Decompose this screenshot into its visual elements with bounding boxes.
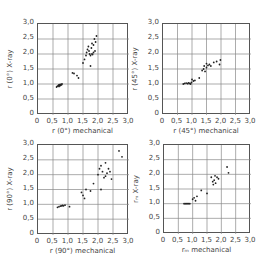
data-point [95, 41, 97, 43]
data-point [215, 182, 217, 184]
y-tick-label: 1,0 [144, 199, 160, 206]
x-tick-label: 2,0 [90, 118, 106, 125]
y-tick-label: 2,0 [18, 49, 34, 56]
y-tick-label: 1,5 [18, 65, 34, 72]
plot-area [163, 144, 250, 233]
x-axis-label: r (45°) mechanical [162, 127, 250, 135]
data-point [96, 35, 98, 37]
y-tick-label: 0,5 [143, 95, 159, 102]
y-tick-label: 0 [143, 110, 159, 117]
x-tick-label: 1,0 [59, 118, 75, 125]
x-tick-label: 3,0 [242, 118, 258, 125]
plot-svg [164, 145, 251, 234]
data-point [99, 168, 101, 170]
y-tick-label: 3,0 [144, 140, 160, 147]
data-point [216, 176, 218, 178]
data-point [86, 52, 88, 54]
y-tick-label: 1,5 [18, 185, 34, 192]
data-point [195, 200, 197, 202]
y-axis-label: r (0°) X-ray [6, 29, 14, 109]
y-tick-label: 1,5 [144, 185, 160, 192]
data-point [212, 184, 214, 186]
data-point [69, 206, 71, 208]
data-point [78, 77, 80, 79]
x-axis-label: r (0°) mechanical [37, 127, 128, 135]
x-tick-label: 0,5 [44, 118, 60, 125]
data-point [209, 64, 211, 66]
data-point [191, 82, 193, 84]
data-point [90, 190, 92, 192]
data-point [85, 189, 87, 191]
x-tick-label: 2,5 [105, 118, 121, 125]
x-tick-label: 1,5 [75, 118, 91, 125]
y-tick-label: 1,0 [18, 80, 34, 87]
plot-svg [38, 24, 129, 115]
plot-area [162, 23, 250, 114]
y-tick-label: 0,5 [144, 214, 160, 221]
y-tick-label: 3,0 [18, 140, 34, 147]
data-point [91, 43, 93, 45]
data-point [204, 71, 206, 73]
data-point [216, 61, 218, 63]
data-point [105, 162, 107, 164]
data-point [190, 83, 192, 85]
data-point [210, 65, 212, 67]
data-point [93, 44, 95, 46]
x-tick-label: 0,5 [169, 118, 185, 125]
data-point [118, 150, 120, 152]
data-point [191, 79, 193, 81]
plot-svg [163, 24, 251, 115]
data-point [87, 49, 89, 51]
data-point [218, 178, 220, 180]
y-tick-label: 1,0 [143, 80, 159, 87]
data-point [206, 193, 208, 195]
x-tick-label: 2,5 [227, 118, 243, 125]
data-point [92, 54, 94, 56]
x-tick-label: 0 [29, 118, 45, 125]
y-tick-label: 2,5 [144, 155, 160, 162]
data-point [206, 67, 208, 69]
data-point [90, 65, 92, 67]
data-point [189, 203, 191, 205]
data-point [206, 63, 208, 65]
data-point [200, 190, 202, 192]
data-point [93, 183, 95, 185]
data-point [213, 179, 215, 181]
x-tick-label: 2,0 [90, 238, 106, 245]
data-point [93, 52, 95, 54]
x-tick-label: 0,5 [44, 238, 60, 245]
data-point [81, 192, 83, 194]
y-tick-label: 2,5 [18, 34, 34, 41]
data-point [82, 195, 84, 197]
x-tick-label: 3,0 [242, 237, 258, 244]
data-point [91, 47, 93, 49]
data-point [201, 70, 203, 72]
data-point [82, 62, 84, 64]
x-tick-label: 1,0 [183, 118, 199, 125]
data-point [102, 171, 104, 173]
data-point [84, 198, 86, 200]
y-tick-label: 2,5 [18, 155, 34, 162]
data-point [109, 171, 111, 173]
x-tick-label: 1,5 [198, 118, 214, 125]
data-point [100, 189, 102, 191]
data-point [226, 166, 228, 168]
x-tick-label: 2,0 [213, 118, 229, 125]
data-point [64, 204, 66, 206]
data-point [213, 62, 215, 64]
y-tick-label: 3,0 [18, 19, 34, 26]
plot-area [37, 144, 128, 234]
data-point [76, 75, 78, 77]
data-point [121, 156, 123, 158]
x-tick-label: 2,5 [105, 238, 121, 245]
data-point [203, 65, 205, 67]
x-tick-label: 3,0 [120, 238, 136, 245]
data-point [214, 175, 216, 177]
data-point [228, 172, 230, 174]
y-tick-label: 3,0 [143, 19, 159, 26]
x-tick-label: 3,0 [120, 118, 136, 125]
data-point [203, 68, 205, 70]
data-point [73, 73, 75, 75]
y-tick-label: 2,5 [143, 34, 159, 41]
data-point [84, 59, 86, 61]
